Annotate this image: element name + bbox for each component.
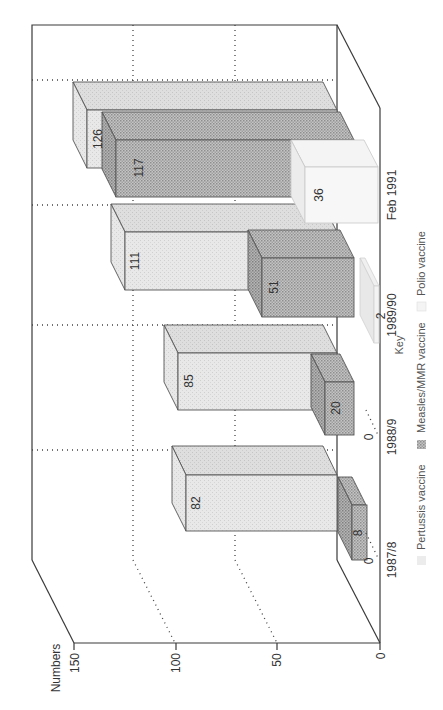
tick-50: 50: [270, 653, 284, 667]
value-axis-ticks: 150 100 50 0 Numbers: [49, 643, 388, 692]
category-1989-90: 1989/90: [385, 293, 399, 337]
category-1988-9: 1988/9: [385, 418, 399, 455]
label-pertussis-1989-90: 111: [128, 252, 142, 271]
legend-swatch-measles: [417, 440, 426, 449]
y-axis-title: Numbers: [49, 644, 63, 693]
legend-measles: Measles/MMR vaccine: [415, 322, 427, 433]
category-1987-8: 1987/8: [385, 541, 399, 578]
bar-measles-1989-90: [248, 230, 354, 317]
label-measles-feb1991: 117: [132, 158, 146, 177]
label-polio-feb1991: 36: [312, 188, 326, 202]
bar-measles-1988-9: [311, 354, 354, 435]
label-polio-1988-9: 0: [362, 433, 376, 440]
legend-swatch-pertussis: [417, 556, 426, 565]
tick-100: 100: [169, 653, 183, 673]
bar-pertussis-1987-8: [172, 446, 337, 531]
bar-polio-feb1991: [291, 140, 378, 223]
label-pertussis-1988-9: 85: [182, 374, 196, 388]
legend-title: Key: [393, 335, 405, 354]
bar-measles-1987-8: [338, 477, 367, 560]
side-diagonal-top: [337, 25, 380, 108]
legend-swatch-polio: [417, 302, 426, 311]
side-diagonal-origin: [337, 560, 380, 643]
back-floor-line: [32, 560, 74, 643]
label-pertussis-1987-8: 82: [189, 496, 203, 510]
label-polio-1987-8: 0: [362, 557, 376, 564]
category-labels: 1987/8 1988/9 1989/90 Feb 1991: [385, 169, 399, 578]
label-measles-1989-90: 51: [267, 280, 281, 294]
legend-polio: Polio vaccine: [415, 231, 427, 296]
category-feb1991: Feb 1991: [385, 169, 399, 220]
label-pertussis-feb1991: 126: [91, 129, 105, 149]
legend-pertussis: Pertussis vaccine: [415, 464, 427, 550]
legend: Key Pertussis vaccine Measles/MMR vaccin…: [393, 231, 427, 565]
bar-polio-1989-90: [360, 258, 379, 343]
tick-150: 150: [68, 653, 82, 673]
label-measles-1987-8: 8: [351, 529, 365, 536]
vaccine-bar-chart: 126 117 36 111 51 2 85 20 0 82 8 0 1987/…: [0, 0, 443, 710]
label-measles-1988-9: 20: [329, 401, 343, 415]
tick-0: 0: [374, 652, 388, 659]
